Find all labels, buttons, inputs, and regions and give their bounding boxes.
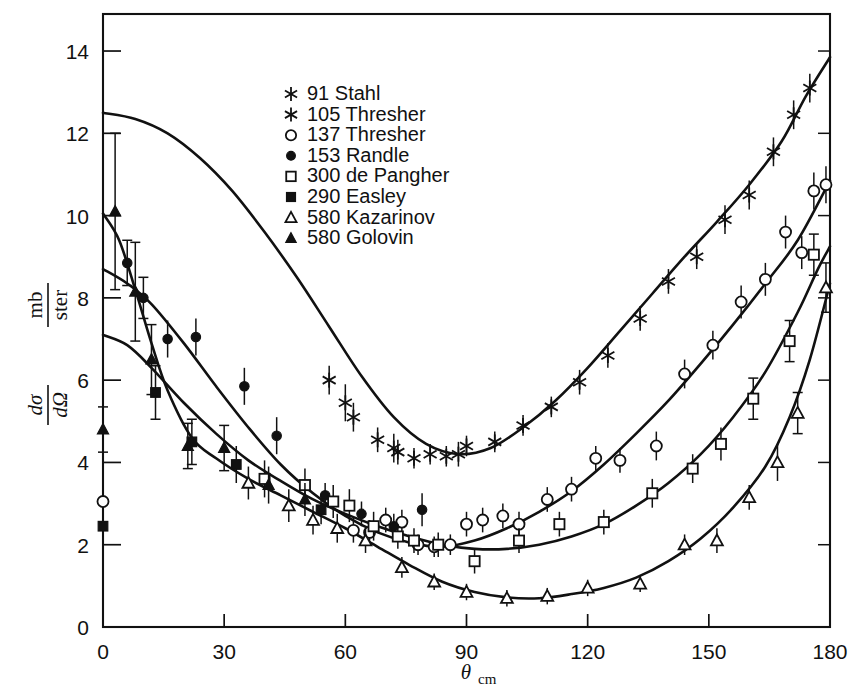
legend-item-thresher: 137 Thresher <box>286 123 426 145</box>
data-point-marker <box>566 484 577 495</box>
data-point-marker <box>357 509 366 518</box>
data-point-marker <box>513 519 524 530</box>
data-point-marker <box>785 336 795 346</box>
x-axis-title: θ cm <box>461 660 497 687</box>
data-point-marker <box>348 525 359 536</box>
y-tick-label-10: 10 <box>66 205 89 228</box>
curve-91-stahl <box>103 57 830 454</box>
data-point-marker <box>590 453 601 464</box>
data-point-marker <box>316 505 326 515</box>
data-point-marker <box>240 382 249 391</box>
legend-item-thresher: 105 Thresher <box>285 103 426 125</box>
data-point-marker <box>780 227 791 238</box>
data-point-marker <box>286 233 296 243</box>
x-axis-ticks: 0306090120150180 <box>97 614 847 663</box>
data-point-marker <box>736 296 747 307</box>
x-axis-title-sub: cm <box>478 671 497 687</box>
data-point-marker <box>285 108 297 122</box>
data-point-marker <box>409 536 419 546</box>
data-point-marker <box>286 172 296 182</box>
data-point-marker <box>748 394 758 404</box>
data-point-marker <box>541 590 553 601</box>
data-point-marker <box>417 505 426 514</box>
data-point-marker <box>582 582 594 593</box>
legend-item-stahl: 91 Stahl <box>285 82 380 104</box>
data-point-marker <box>328 496 338 506</box>
legend-label: 580 Golovin <box>307 226 414 248</box>
data-point-marker <box>191 332 200 341</box>
data-point-marker <box>285 212 296 222</box>
y-axis-units-numerator: mb <box>23 292 47 319</box>
y-axis-denominator: dΩ <box>48 392 72 418</box>
legend-label: 137 Thresher <box>307 123 426 145</box>
y-tick-label-0: 0 <box>77 616 89 639</box>
data-point-marker <box>796 247 807 258</box>
y-axis-title-units: mb ster <box>23 283 72 327</box>
x-tick-label-180: 180 <box>812 640 847 663</box>
data-point-marker <box>554 519 564 529</box>
data-point-marker <box>514 536 524 546</box>
data-point-marker <box>97 496 108 507</box>
y-tick-label-14: 14 <box>66 40 90 63</box>
data-point-marker <box>599 517 609 527</box>
data-point-marker <box>347 410 360 425</box>
data-point-marker <box>371 432 384 447</box>
legend-label: 153 Randle <box>307 144 409 166</box>
data-point-marker <box>272 431 281 440</box>
legend: 91 Stahl105 Thresher137 Thresher153 Rand… <box>285 82 450 248</box>
data-point-marker <box>497 510 508 521</box>
legend-label: 91 Stahl <box>307 82 380 104</box>
curve-137-thresher <box>103 181 830 547</box>
curve-290-300 <box>103 246 830 549</box>
data-point-marker <box>123 258 132 267</box>
legend-item-randle: 153 Randle <box>287 144 410 166</box>
data-point-marker <box>808 185 819 196</box>
data-point-marker <box>163 334 172 343</box>
data-point-marker <box>307 514 319 525</box>
data-point-marker <box>679 368 690 379</box>
data-point-marker <box>679 539 691 550</box>
data-point-marker <box>445 539 456 550</box>
data-point-marker <box>820 179 831 190</box>
data-point-marker <box>369 521 379 531</box>
x-tick-label-150: 150 <box>691 640 726 663</box>
data-point-marker <box>711 534 723 545</box>
figure-root: 0306090120150180 02468101214 91 Stahl105… <box>0 0 862 695</box>
data-point-marker <box>634 578 646 589</box>
data-point-marker <box>760 274 771 285</box>
series-137-thresher <box>97 166 831 557</box>
y-tick-label-6: 6 <box>77 369 89 392</box>
data-point-marker <box>286 130 296 140</box>
data-point-marker <box>407 451 420 466</box>
data-point-marker <box>647 488 657 498</box>
data-point-marker <box>285 87 297 101</box>
data-point-marker <box>287 193 296 202</box>
data-point-marker <box>287 151 296 160</box>
data-point-marker <box>809 250 819 260</box>
series-580-golovin <box>97 133 310 516</box>
data-point-marker <box>469 556 479 566</box>
data-point-marker <box>542 494 553 505</box>
x-tick-label-60: 60 <box>334 640 357 663</box>
series-580-kazarinov <box>242 263 831 607</box>
data-point-marker <box>433 540 443 550</box>
y-axis-title-quantity: dσ dΩ <box>23 385 72 425</box>
y-tick-label-2: 2 <box>77 534 89 557</box>
legend-label: 300 de Pangher <box>307 164 450 186</box>
x-tick-label-0: 0 <box>97 640 109 663</box>
data-point-marker <box>477 515 488 526</box>
y-tick-label-12: 12 <box>66 122 89 145</box>
data-point-marker <box>716 439 726 449</box>
legend-item-easley: 290 Easley <box>287 185 406 207</box>
data-point-marker <box>231 460 241 470</box>
scattering-cross-section-chart: 0306090120150180 02468101214 91 Stahl105… <box>0 0 862 695</box>
y-tick-label-8: 8 <box>77 287 89 310</box>
data-point-marker <box>344 501 354 511</box>
data-point-marker <box>707 340 718 351</box>
x-tick-label-120: 120 <box>570 640 605 663</box>
x-axis-title-main: θ <box>461 660 471 684</box>
legend-label: 290 Easley <box>307 185 406 207</box>
data-point-marker <box>772 456 784 467</box>
data-point-marker <box>98 521 108 531</box>
data-point-marker <box>110 206 121 216</box>
